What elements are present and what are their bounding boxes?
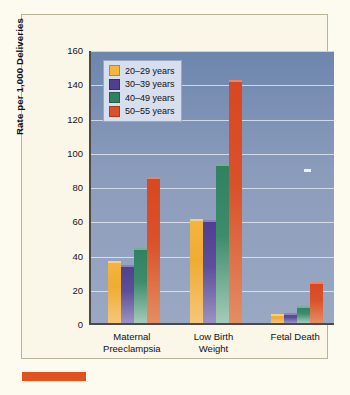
y-tick-label: 100 <box>53 148 83 159</box>
bar[interactable] <box>310 282 323 323</box>
x-tick-label: Fetal Death <box>250 331 340 343</box>
bar-group <box>190 80 242 323</box>
y-tick-label: 40 <box>53 251 83 262</box>
legend-label: 30–39 years <box>125 79 175 89</box>
bar-highlight <box>310 282 323 284</box>
gridline <box>91 51 334 52</box>
bar-highlight <box>203 220 216 222</box>
bar[interactable] <box>229 80 242 323</box>
y-tick-label: 20 <box>53 285 83 296</box>
legend-label: 40–49 years <box>125 93 175 103</box>
y-tick-label: 80 <box>53 182 83 193</box>
x-axis-category-labels: MaternalPreeclampsiaLow BirthWeightFetal… <box>89 329 334 369</box>
bar[interactable] <box>147 177 160 323</box>
figure-card: Rate per 1,000 Deliveries 02040608010012… <box>21 14 328 359</box>
legend-swatch-30-39-icon <box>109 79 120 90</box>
bar-highlight <box>190 219 203 221</box>
legend-item[interactable]: 40–49 years <box>109 92 175 103</box>
bar-highlight <box>134 248 147 250</box>
bar-group <box>271 282 323 323</box>
bar-highlight <box>271 314 284 316</box>
bar[interactable] <box>297 306 310 323</box>
bar-highlight <box>108 261 121 263</box>
bar[interactable] <box>108 261 121 323</box>
legend-swatch-40-49-icon <box>109 92 120 103</box>
bar-highlight <box>297 306 310 308</box>
bar-highlight <box>121 265 134 267</box>
bar[interactable] <box>134 248 147 323</box>
bar[interactable] <box>203 220 216 323</box>
y-tick-label: 120 <box>53 114 83 125</box>
x-tick-label-line: Fetal Death <box>250 331 340 343</box>
legend-label: 50–55 years <box>125 106 175 116</box>
legend: 20–29 years 30–39 years 40–49 years 50–5… <box>103 60 182 122</box>
legend-label: 20–29 years <box>125 66 175 76</box>
y-tick-label: 0 <box>53 319 83 330</box>
legend-item[interactable]: 50–55 years <box>109 106 175 117</box>
bar[interactable] <box>121 265 134 323</box>
bar[interactable] <box>284 313 297 323</box>
legend-swatch-20-29-icon <box>109 65 120 76</box>
legend-item[interactable]: 20–29 years <box>109 65 175 76</box>
x-tick-label-line: Weight <box>169 343 259 355</box>
x-tick-label-line: Maternal <box>87 331 177 343</box>
bar-group <box>108 177 160 323</box>
x-tick-label: MaternalPreeclampsia <box>87 331 177 354</box>
y-tick-label: 60 <box>53 216 83 227</box>
bar-highlight <box>216 164 229 166</box>
y-tick-label: 160 <box>53 45 83 56</box>
x-tick-label-line: Low Birth <box>169 331 259 343</box>
legend-item[interactable]: 30–39 years <box>109 79 175 90</box>
bar-highlight <box>284 313 297 315</box>
caption-accent-rule <box>22 372 86 381</box>
bar[interactable] <box>190 219 203 323</box>
x-tick-label: Low BirthWeight <box>169 331 259 354</box>
bar[interactable] <box>216 164 229 323</box>
y-tick-label: 140 <box>53 79 83 90</box>
x-tick-label-line: Preeclampsia <box>87 343 177 355</box>
white-artifact-mark <box>304 169 311 172</box>
bar-highlight <box>147 177 160 179</box>
bar-highlight <box>229 80 242 82</box>
legend-swatch-50-55-icon <box>109 106 120 117</box>
plot-area: 20–29 years 30–39 years 40–49 years 50–5… <box>89 51 334 325</box>
bar[interactable] <box>271 314 284 323</box>
